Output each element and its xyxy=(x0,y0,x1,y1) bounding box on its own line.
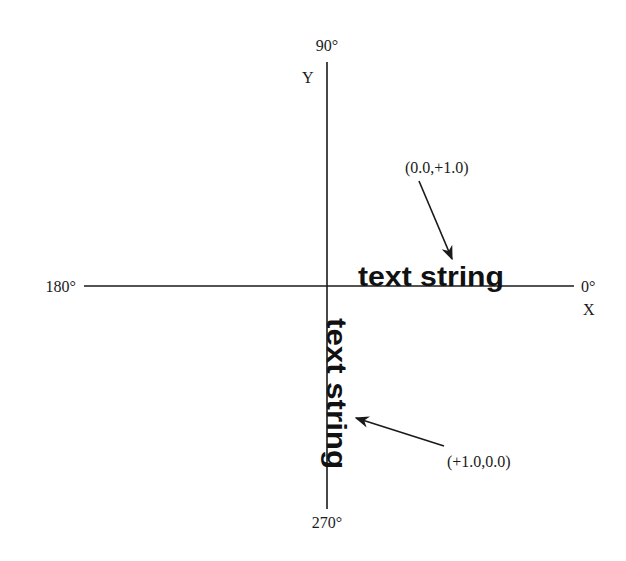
horizontal-text-string: text string xyxy=(358,262,504,292)
angle-180-label: 180° xyxy=(46,278,76,295)
angle-0-label: 0° xyxy=(581,278,595,295)
vertical-direction-label: (+1.0,0.0) xyxy=(447,453,511,471)
vertical-text-string: text string xyxy=(321,318,351,469)
horizontal-direction-label: (0.0,+1.0) xyxy=(405,159,469,177)
horizontal-direction-arrow xyxy=(419,181,452,259)
angle-270-label: 270° xyxy=(312,514,342,531)
vertical-direction-arrow xyxy=(356,418,444,446)
angle-90-label: 90° xyxy=(316,37,338,54)
x-axis-label: X xyxy=(583,301,595,318)
text-orientation-diagram: 90° 270° 180° 0° Y X text string text st… xyxy=(0,0,626,561)
y-axis-label: Y xyxy=(302,69,314,86)
